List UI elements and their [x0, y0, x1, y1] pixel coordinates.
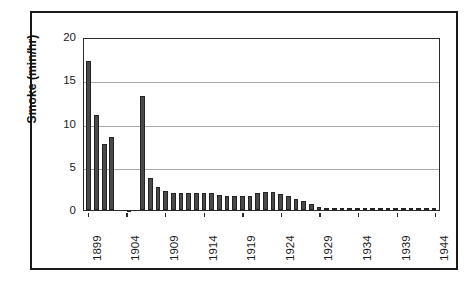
bar-slot — [169, 39, 177, 210]
y-tick-label-10: 10 — [46, 119, 76, 131]
bar-slot — [200, 39, 208, 210]
smoke-bar-chart: Smoke (min/hr) 05101520 1899190419091914… — [0, 0, 474, 284]
bar-slot — [261, 39, 269, 210]
bar-slot — [100, 39, 108, 210]
bar-slot — [407, 39, 415, 210]
bar-slot — [323, 39, 331, 210]
x-tick-mark-1934 — [358, 213, 359, 217]
bar-1909 — [163, 191, 168, 210]
bar-slot — [423, 39, 431, 210]
x-tick-mark-1924 — [281, 213, 282, 217]
y-axis-ticks: 05101520 — [46, 30, 76, 220]
bar-slot — [139, 39, 147, 210]
bars-layer — [84, 39, 439, 210]
bar-1907 — [148, 178, 153, 210]
y-tick-label-5: 5 — [46, 162, 76, 174]
bar-slot — [315, 39, 323, 210]
bar-1899 — [86, 61, 91, 210]
bar-slot — [154, 39, 162, 210]
x-tick-label-1944: 1944 — [439, 235, 451, 261]
bar-1942 — [416, 208, 421, 210]
bar-slot — [231, 39, 239, 210]
bar-slot — [177, 39, 185, 210]
x-tick-label-1934: 1934 — [362, 235, 374, 261]
bar-1932 — [340, 208, 345, 210]
y-tick-label-15: 15 — [46, 75, 76, 87]
bar-slot — [361, 39, 369, 210]
bar-1939 — [393, 208, 398, 210]
bar-1943 — [424, 208, 429, 210]
bar-1935 — [363, 208, 368, 210]
bar-slot — [208, 39, 216, 210]
bar-1919 — [240, 196, 245, 210]
bar-1911 — [179, 193, 184, 210]
bar-slot — [354, 39, 362, 210]
bar-slot — [430, 39, 438, 210]
x-tick-label-1924: 1924 — [285, 235, 297, 261]
bar-1930 — [324, 208, 329, 210]
bar-1917 — [225, 196, 230, 210]
bar-1921 — [255, 193, 260, 210]
bar-1923 — [271, 192, 276, 210]
y-axis-title: Smoke (min/hr) — [25, 9, 39, 149]
bar-1940 — [401, 208, 406, 210]
bar-slot — [162, 39, 170, 210]
bar-slot — [93, 39, 101, 210]
x-tick-label-1899: 1899 — [92, 235, 104, 261]
bar-slot — [277, 39, 285, 210]
x-tick-mark-1914 — [204, 213, 205, 217]
bar-slot — [292, 39, 300, 210]
bar-1916 — [217, 195, 222, 210]
bar-1934 — [355, 208, 360, 210]
bar-1915 — [209, 193, 214, 210]
bar-slot — [85, 39, 93, 210]
bar-slot — [369, 39, 377, 210]
bar-slot — [131, 39, 139, 210]
bar-slot — [400, 39, 408, 210]
bar-slot — [284, 39, 292, 210]
bar-slot — [254, 39, 262, 210]
bar-slot — [331, 39, 339, 210]
bar-1925 — [286, 196, 291, 210]
bar-1914 — [202, 193, 207, 210]
bar-1937 — [378, 208, 383, 210]
bar-1900 — [94, 115, 99, 210]
bar-1931 — [332, 208, 337, 210]
x-tick-label-1904: 1904 — [130, 235, 142, 261]
bar-1926 — [294, 199, 299, 210]
bar-slot — [384, 39, 392, 210]
bar-1912 — [186, 193, 191, 210]
bar-slot — [246, 39, 254, 210]
bar-1901 — [102, 144, 107, 210]
bar-1944 — [432, 208, 437, 210]
bar-slot — [192, 39, 200, 210]
x-tick-mark-1944 — [435, 213, 436, 217]
x-tick-label-1914: 1914 — [208, 235, 220, 261]
bar-1927 — [301, 201, 306, 211]
x-tick-label-1909: 1909 — [169, 235, 181, 261]
bar-1929 — [317, 207, 322, 210]
plot-area — [83, 38, 440, 211]
x-axis-ticks: 1899190419091914191919241929193419391944 — [83, 213, 440, 269]
bar-1922 — [263, 192, 268, 210]
bar-slot — [108, 39, 116, 210]
bar-slot — [116, 39, 124, 210]
bar-1936 — [370, 208, 375, 210]
bar-1918 — [232, 196, 237, 210]
bar-1906 — [140, 96, 145, 210]
bar-1938 — [386, 208, 391, 210]
bar-1920 — [248, 196, 253, 210]
x-tick-mark-1939 — [397, 213, 398, 217]
bar-slot — [346, 39, 354, 210]
bar-slot — [415, 39, 423, 210]
x-tick-mark-1909 — [165, 213, 166, 217]
bar-slot — [392, 39, 400, 210]
y-tick-label-20: 20 — [46, 32, 76, 44]
bar-1913 — [194, 193, 199, 210]
bar-1910 — [171, 193, 176, 210]
bar-slot — [223, 39, 231, 210]
bar-slot — [123, 39, 131, 210]
x-tick-mark-1919 — [242, 213, 243, 217]
y-tick-label-0: 0 — [46, 205, 76, 217]
x-tick-label-1939: 1939 — [401, 235, 413, 261]
